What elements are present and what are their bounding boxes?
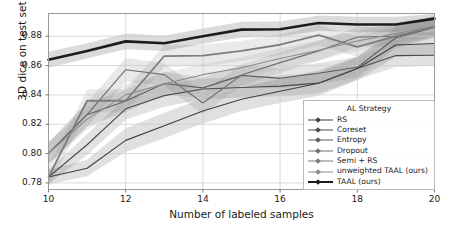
x-tick-label: 16 (265, 194, 295, 204)
x-axis-label: Number of labeled samples (48, 208, 435, 220)
legend-rows: RSCoresetEntropyDropoutSemi + RSunweight… (308, 115, 430, 188)
y-tick-label: 0.82 (8, 118, 42, 128)
y-tick-label: 0.86 (8, 60, 42, 70)
legend-line-icon (308, 177, 333, 187)
y-tick-label: 0.80 (8, 148, 42, 158)
legend-item-label: RS (337, 115, 347, 125)
legend-line-icon (308, 146, 333, 156)
legend-item-label: Coreset (337, 125, 366, 135)
legend-line-icon (308, 167, 333, 177)
x-tick-label: 12 (111, 194, 141, 204)
legend-item-rs[interactable]: RS (308, 115, 430, 125)
legend-item-label: Semi + RS (337, 156, 377, 166)
y-tick-label: 0.88 (8, 30, 42, 40)
legend-item-semi-rs[interactable]: Semi + RS (308, 156, 430, 166)
legend-item-label: TAAL (ours) (337, 177, 381, 187)
legend-item-label: unweighted TAAL (ours) (337, 166, 428, 176)
legend-item-unweighted-taal-ours[interactable]: unweighted TAAL (ours) (308, 166, 430, 176)
legend-line-icon (308, 156, 333, 166)
figure: 3D dice on test set Number of labeled sa… (0, 0, 451, 228)
legend[interactable]: AL Strategy RSCoresetEntropyDropoutSemi … (303, 100, 435, 190)
x-tick-label: 20 (420, 194, 450, 204)
x-tick-label: 14 (188, 194, 218, 204)
legend-title: AL Strategy (308, 104, 430, 113)
legend-item-label: Entropy (337, 135, 367, 145)
x-tick-label: 18 (342, 194, 372, 204)
y-tick-label: 0.78 (8, 177, 42, 187)
legend-line-icon (308, 135, 333, 145)
legend-item-taal-ours[interactable]: TAAL (ours) (308, 177, 430, 187)
legend-item-coreset[interactable]: Coreset (308, 125, 430, 135)
legend-line-icon (308, 115, 333, 125)
y-axis-label: 3D dice on test set (16, 1, 28, 100)
legend-item-dropout[interactable]: Dropout (308, 146, 430, 156)
x-tick-label: 10 (34, 194, 64, 204)
legend-line-icon (308, 125, 333, 135)
legend-item-entropy[interactable]: Entropy (308, 135, 430, 145)
y-tick-label: 0.84 (8, 89, 42, 99)
legend-item-label: Dropout (337, 146, 368, 156)
